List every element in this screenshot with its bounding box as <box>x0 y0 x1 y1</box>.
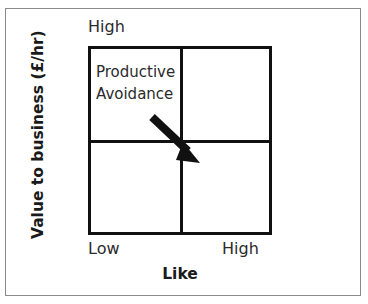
quadrant-label-line-1: Productive <box>96 62 182 84</box>
matrix-horizontal-divider <box>91 140 269 143</box>
x-axis-high-tick-label: High <box>222 239 259 258</box>
productive-avoidance-figure: Value to business (£/hr) High Productive… <box>0 0 368 304</box>
quadrant-label-line-2: Avoidance <box>96 84 182 106</box>
y-axis-high-tick-label: High <box>88 17 125 36</box>
y-axis-label: Value to business (£/hr) <box>29 39 47 239</box>
quadrant-label-productive-avoidance: Productive Avoidance <box>96 62 182 106</box>
x-axis-low-tick-label: Low <box>88 239 120 258</box>
x-axis-label: Like <box>88 265 272 283</box>
